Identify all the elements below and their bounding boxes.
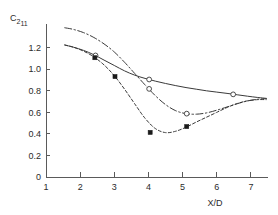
x-tick-label: 3 xyxy=(112,182,117,192)
data-point-marker xyxy=(147,77,152,82)
chart-figure: C211 00.20.40.60.81.01.2 1234567 X/D xyxy=(0,0,278,215)
data-point-marker xyxy=(148,130,152,134)
data-point-marker xyxy=(184,111,189,116)
data-point-marker xyxy=(231,92,236,97)
y-tick-label: 1.0 xyxy=(28,64,41,74)
series-line xyxy=(65,28,267,114)
y-tick-label: 0 xyxy=(36,172,41,182)
data-point-marker xyxy=(93,56,97,60)
x-tick-label: 1 xyxy=(43,182,48,192)
data-point-marker xyxy=(185,125,189,129)
y-axis-title: C211 xyxy=(10,13,28,27)
x-tick-label: 6 xyxy=(214,182,219,192)
x-axis-ticks: 1234567 xyxy=(43,172,253,192)
x-tick-label: 4 xyxy=(146,182,151,192)
series-dashed-filled-square xyxy=(65,45,267,134)
series-dashdot-open-circle xyxy=(65,28,267,116)
x-axis-title: X/D xyxy=(207,198,223,208)
series-layer xyxy=(65,28,267,135)
y-tick-label: 0.6 xyxy=(28,108,41,118)
y-tick-label: 0.4 xyxy=(28,129,41,139)
line-chart: C211 00.20.40.60.81.01.2 1234567 X/D xyxy=(0,0,278,215)
series-solid-open-circle xyxy=(65,45,267,98)
y-tick-label: 0.8 xyxy=(28,86,41,96)
y-axis-ticks: 00.20.40.60.81.01.2 xyxy=(28,43,50,182)
data-point-marker xyxy=(113,75,117,79)
x-tick-label: 7 xyxy=(248,182,253,192)
y-tick-label: 1.2 xyxy=(28,43,41,53)
x-tick-label: 5 xyxy=(180,182,185,192)
x-tick-label: 2 xyxy=(78,182,83,192)
data-point-marker xyxy=(147,86,152,91)
y-tick-label: 0.2 xyxy=(28,151,41,161)
